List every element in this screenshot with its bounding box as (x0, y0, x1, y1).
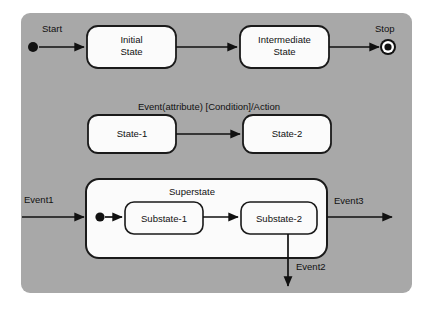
event2-label: Event2 (296, 261, 326, 272)
superstate-initial-state-icon (95, 212, 104, 221)
stop-final-state-icon-core (384, 43, 391, 50)
state-state-2-label: State-2 (272, 128, 303, 139)
state-state-1-label: State-1 (117, 128, 148, 139)
state-intermediate-state-label-line2: State (273, 46, 295, 57)
superstate-title-label: Superstate (169, 186, 215, 197)
stop-label: Stop (375, 23, 395, 34)
state-initial-state-label-line2: State (120, 46, 142, 57)
state-initial-state-label-line1: Initial (120, 34, 142, 45)
event3-label: Event3 (334, 195, 364, 206)
diagram-svg: Start Initial State Intermediate State S… (0, 0, 429, 309)
uml-state-diagram-canvas: Start Initial State Intermediate State S… (0, 0, 429, 309)
state-substate-2-label: Substate-2 (256, 213, 302, 224)
start-initial-state-icon (28, 42, 38, 52)
event1-label: Event1 (24, 194, 54, 205)
start-label: Start (42, 23, 62, 34)
state-substate-1-label: Substate-1 (141, 213, 187, 224)
state-intermediate-state-label-line1: Intermediate (258, 34, 311, 45)
transition-annotation-label: Event(attribute) [Condition]/Action (138, 101, 280, 112)
